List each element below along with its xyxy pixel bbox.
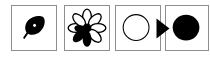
circle-filled-icon (166, 6, 208, 50)
panel-circle-outline[interactable] (115, 5, 161, 51)
panel-leaf[interactable] (11, 5, 57, 51)
panel-flower[interactable] (64, 5, 110, 51)
panel-circle-filled[interactable] (165, 5, 209, 51)
circle-outline-icon (116, 6, 160, 50)
triangle-right-arrow-icon (156, 18, 170, 39)
shape-panel-figure (0, 0, 210, 63)
leaf-icon (12, 6, 56, 50)
flower-center (83, 24, 92, 33)
flower-icon (65, 6, 109, 50)
